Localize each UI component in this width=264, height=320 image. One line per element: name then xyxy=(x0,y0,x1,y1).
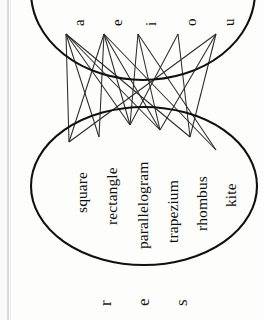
edge-lines xyxy=(66,34,216,150)
mapping-diagram-svg xyxy=(0,0,264,320)
vowel-label-i: i xyxy=(144,22,159,26)
scanned-page: a e i o u square rectangle parallelogram… xyxy=(0,0,264,320)
cropped-glyph-s: s xyxy=(172,299,192,306)
vowel-label-u: u xyxy=(222,18,237,26)
edge-a-rectangle xyxy=(66,34,99,137)
shape-label-square: square xyxy=(74,172,90,213)
edge-o-rhombus xyxy=(178,34,190,137)
shape-label-trapezium: trapezium xyxy=(165,180,181,243)
edge-e-rectangle xyxy=(99,34,104,137)
edge-u-square xyxy=(69,34,216,142)
vowel-label-e: e xyxy=(110,19,125,26)
edge-i-kite xyxy=(138,34,216,150)
shape-label-rectangle: rectangle xyxy=(104,167,120,225)
vowel-set-ellipse xyxy=(31,0,255,80)
cropped-glyph-r: r xyxy=(96,300,116,306)
edge-u-rhombus xyxy=(190,34,216,137)
vowel-label-a: a xyxy=(72,19,87,26)
edge-i-trapezium xyxy=(138,34,160,130)
edge-e-square xyxy=(69,34,104,142)
shape-label-parallelogram: parallelogram xyxy=(135,162,151,249)
shape-label-rhombus: rhombus xyxy=(194,176,210,231)
vowel-label-o: o xyxy=(184,18,199,26)
shape-label-kite: kite xyxy=(223,183,239,207)
cropped-glyph-e: e xyxy=(134,298,154,306)
cropped-caption-row: r e s xyxy=(0,296,264,320)
edge-a-square xyxy=(66,34,69,142)
